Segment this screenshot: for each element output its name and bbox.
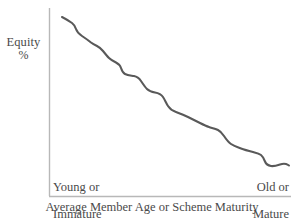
equity-curve xyxy=(62,17,289,166)
x-axis-start-label-line1: Young or xyxy=(53,180,99,194)
chart-container: Equity % Young or Immature Old or Mature… xyxy=(0,0,304,218)
x-axis-caption: Average Member Age or Scheme Maturity xyxy=(0,200,304,215)
x-axis-end-label-line1: Old or xyxy=(257,180,289,194)
